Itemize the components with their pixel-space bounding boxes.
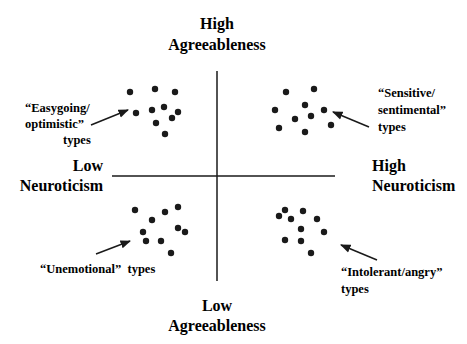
sensitive-label-line2: sentimental” (378, 103, 446, 117)
intolerant-label-line1: “Intolerant/angry” (341, 265, 442, 279)
top-right-arrow-icon (333, 112, 369, 127)
data-point (308, 250, 314, 256)
easygoing-label-line2: optimistic” (25, 117, 84, 131)
data-point (292, 116, 298, 122)
top-right-cluster (272, 86, 334, 135)
data-point (149, 217, 155, 223)
top-axis-label-line1: High (200, 15, 234, 33)
sensitive-label-line1: “Sensitive/ (378, 86, 435, 100)
data-point (276, 125, 282, 131)
right-axis-label-line2: Neuroticism (372, 177, 456, 194)
data-point (298, 226, 304, 232)
data-point (175, 109, 181, 115)
pointer-arrows (91, 110, 377, 260)
data-point (152, 86, 158, 92)
data-points (127, 86, 334, 256)
data-point (153, 120, 159, 126)
data-point (162, 131, 168, 137)
data-point (276, 213, 282, 219)
data-point (175, 225, 181, 231)
data-point (321, 229, 327, 235)
top-left-arrow-icon (91, 110, 128, 125)
bottom-axis-label-line1: Low (202, 297, 233, 314)
data-point (168, 250, 174, 256)
bottom-left-arrow-icon (96, 241, 130, 254)
data-point (282, 207, 288, 213)
data-point (149, 107, 155, 113)
data-point (158, 238, 164, 244)
personality-quadrant-diagram: High Agreeableness Low Agreeableness Low… (0, 0, 467, 344)
data-point (328, 122, 334, 128)
data-point (143, 238, 149, 244)
data-point (311, 86, 317, 92)
data-point (321, 107, 327, 113)
data-point (162, 209, 168, 215)
data-point (127, 89, 133, 95)
data-point (300, 208, 306, 214)
data-point (302, 129, 308, 135)
data-point (182, 229, 188, 235)
data-point (288, 216, 294, 222)
left-axis-label-line2: Neuroticism (20, 177, 104, 194)
data-point (302, 102, 308, 108)
data-point (175, 204, 181, 210)
data-point (161, 104, 167, 110)
data-point (282, 237, 288, 243)
top-axis-label-line2: Agreeableness (168, 36, 265, 54)
data-point (133, 110, 139, 116)
unemotional-label: “Unemotional” types (40, 262, 155, 276)
top-left-cluster (127, 86, 181, 137)
data-point (169, 115, 175, 121)
data-point (272, 107, 278, 113)
bottom-axis-label-line2: Agreeableness (168, 317, 265, 335)
intolerant-label-line2: types (341, 282, 369, 296)
data-point (298, 238, 304, 244)
data-point (140, 229, 146, 235)
data-point (308, 113, 314, 119)
bottom-right-cluster (276, 207, 327, 256)
left-axis-label-line1: Low (73, 157, 104, 174)
data-point (132, 207, 138, 213)
data-point (172, 89, 178, 95)
bottom-left-cluster (132, 204, 188, 256)
right-axis-label-line1: High (372, 157, 406, 175)
sensitive-label-line3: types (378, 120, 406, 134)
bottom-right-arrow-icon (341, 245, 377, 260)
easygoing-label-line1: “Easygoing/ (25, 101, 90, 115)
data-point (283, 89, 289, 95)
easygoing-label-line3: types (63, 133, 91, 147)
data-point (314, 216, 320, 222)
